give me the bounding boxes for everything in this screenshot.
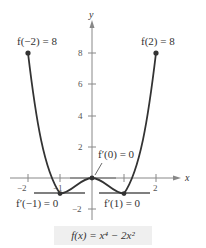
- y-axis-arrow-icon: [90, 20, 95, 28]
- y-axis-label: y: [88, 9, 94, 20]
- y-tick-4: 4: [78, 111, 83, 121]
- point-1-min: [122, 191, 127, 196]
- y-tick-6: 6: [78, 79, 83, 89]
- x-tick-2: 2: [153, 183, 158, 193]
- point-neg1-min: [58, 191, 63, 196]
- point-2-8: [153, 50, 158, 55]
- y-tick-8: 8: [78, 48, 83, 58]
- point-neg2-8: [25, 50, 30, 55]
- label-fp-1: f′(1) = 0: [104, 197, 141, 210]
- label-f-neg2: f(−2) = 8: [17, 35, 57, 48]
- y-tick-neg2: −2: [72, 204, 82, 214]
- x-ticks: −2 −1 2: [17, 174, 158, 193]
- x-tick-neg2: −2: [17, 183, 27, 193]
- label-fp-0: f′(0) = 0: [98, 148, 135, 161]
- x-axis-label: x: [184, 172, 190, 183]
- function-graph: y x 8 6 4 2 −2 −2 −1 2 f(−2) = 8 f(2): [0, 0, 206, 248]
- point-0-max: [90, 176, 95, 181]
- function-formula: f(x) = x⁴ − 2x²: [54, 226, 152, 245]
- label-f-2: f(2) = 8: [141, 35, 175, 48]
- x-axis-arrow-icon: [173, 176, 181, 181]
- leader-line-fp0: [95, 163, 102, 175]
- label-fp-neg1: f′(−1) = 0: [16, 197, 59, 210]
- y-tick-2: 2: [78, 142, 83, 152]
